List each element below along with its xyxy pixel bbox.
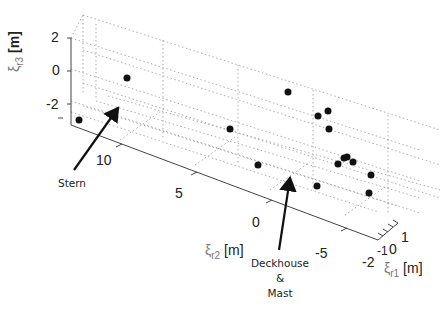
z-tick-neg2: -2 [46,96,58,112]
deckhouse-label-line2: & [250,271,310,286]
x-tick-1: 1 [401,229,409,245]
x-axis-title: ξr1 [m] [384,260,423,276]
stern-label: Stern [58,176,86,191]
z-tick-0: 0 [52,62,60,78]
z-axis-unit: [m] [6,31,22,53]
axes-lines [58,38,398,240]
y-axis-title: ξr2 [m] [205,242,244,258]
z-axis-symbol: ξ [6,66,22,72]
y-tick-0: 0 [252,214,260,230]
y-tick-5: 5 [175,185,183,201]
deckhouse-label-line3: Mast [250,286,310,301]
x-tick-neg2: -2 [362,254,374,270]
deckhouse-arrow [279,178,290,250]
data-points [76,75,375,197]
y-axis-unit: [m] [224,242,243,258]
z-axis-title: ξr3 [m] [6,31,22,72]
scatter-3d-plot [0,0,444,312]
deckhouse-label: Deckhouse & Mast [250,256,310,301]
x-axis-sub: r1 [390,268,399,279]
y-axis-sub: r2 [211,250,220,261]
z-axis-sub: r3 [14,57,25,66]
z-tick-2: 2 [51,29,59,45]
y-tick-10: 10 [96,152,112,168]
x-tick-0: 0 [389,241,397,257]
deckhouse-label-line1: Deckhouse [250,256,310,271]
grid-lines [71,15,440,215]
x-tick-neg1: -1 [377,244,388,258]
x-axis-unit: [m] [403,260,422,276]
y-tick-neg5: -5 [315,245,327,261]
